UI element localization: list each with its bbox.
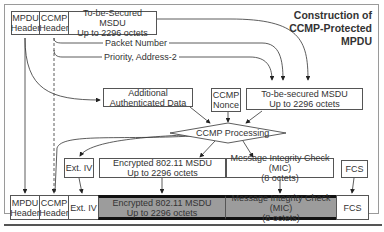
label: CCMP [41,198,68,208]
label: (8 octets) [262,213,300,223]
title-line: MPDU [289,35,372,48]
output-mic: Message Integrity Check (MIC) (8 octets) [226,158,334,178]
label: To-be-Secured MSDU [69,8,156,28]
final-encrypted-msdu: Encrypted 802.11 MSDU Up to 2296 octets [98,195,226,220]
label: Ext. IV [66,163,93,173]
ccmp-processing-label: CCMP Processing [196,128,269,138]
label: MPDU [12,13,39,23]
packet-number-label: Packet Number [103,38,169,48]
label: (8 octets) [261,173,299,183]
label: FCS [344,203,362,213]
label: Header [10,208,40,218]
middle-msdu-box: To-be-secured MSDU Up to 2296 octets [246,88,363,110]
label: To-be-secured MSDU [261,89,348,99]
input-mpdu-header: MPDU Header [11,11,40,35]
label: Ext. IV [70,203,97,213]
input-ccmp-header: CCMP Header [39,11,69,35]
label: FCS [346,164,364,174]
ccmp-nonce-box: CCMP Nonce [211,88,241,112]
label: MPDU [12,198,39,208]
label: Up to 2296 octets [269,99,340,109]
bottom-divider [4,224,382,226]
final-ext-iv: Ext. IV [68,195,99,220]
output-fcs: FCS [341,160,368,178]
label: Nonce [213,100,239,110]
title-line: CCMP-Protected [289,22,372,35]
final-mpdu-header: MPDU Header [10,195,40,220]
label: Header [39,23,69,33]
label: Message Integrity Check (MIC) [226,193,336,213]
diagram-title: Construction of CCMP-Protected MPDU [289,9,372,48]
label: Additional Authenticated Data [104,88,192,108]
label: CCMP [41,13,68,23]
label: Message Integrity Check (MIC) [227,153,333,173]
input-msdu: To-be-Secured MSDU Up to 2296 octets [68,11,157,35]
label: Up to 2296 octets [127,168,198,178]
label: Up to 2296 octets [77,28,148,38]
label: Header [11,23,41,33]
aad-box: Additional Authenticated Data [103,88,193,107]
final-mic: Message Integrity Check (MIC) (8 octets) [225,195,337,220]
label: Encrypted 802.11 MSDU [113,198,212,208]
label: Encrypted 802.11 MSDU [113,158,212,168]
priority-address-label: Priority, Address-2 [102,52,179,62]
final-ccmp-header: CCMP Header [39,195,69,220]
label: CCMP [213,90,240,100]
label: Header [39,208,69,218]
output-ext-iv: Ext. IV [64,158,94,178]
output-encrypted-msdu: Encrypted 802.11 MSDU Up to 2296 octets [99,158,226,178]
final-fcs: FCS [336,195,369,220]
title-line: Construction of [289,9,372,22]
label: Up to 2296 octets [127,208,198,218]
